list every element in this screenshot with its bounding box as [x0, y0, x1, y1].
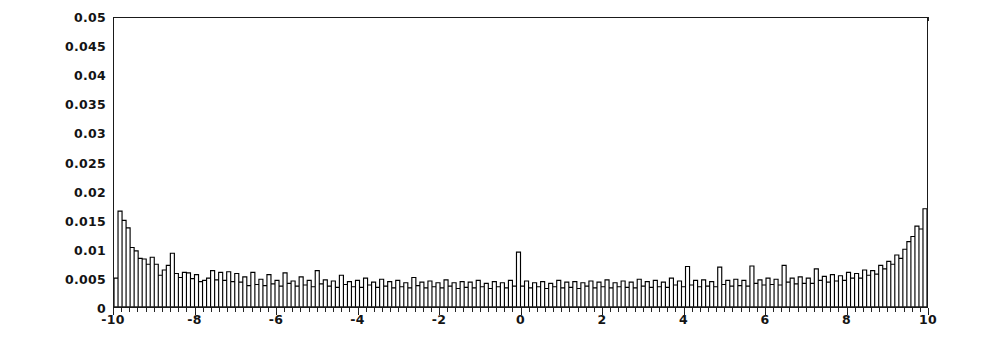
x-minor-tick: [398, 308, 399, 312]
x-minor-tick: [626, 308, 627, 312]
x-minor-tick: [219, 308, 220, 312]
x-minor-tick: [113, 308, 114, 312]
x-minor-tick: [195, 308, 196, 312]
x-minor-tick: [732, 308, 733, 312]
y-tick-label: 0.005: [65, 271, 106, 286]
x-minor-tick: [488, 308, 489, 312]
x-minor-tick: [529, 308, 530, 312]
x-minor-tick: [667, 308, 668, 312]
x-minor-tick: [871, 308, 872, 312]
x-minor-tick: [586, 308, 587, 312]
x-minor-tick: [162, 308, 163, 312]
x-minor-tick: [211, 308, 212, 312]
x-minor-tick: [349, 308, 350, 312]
x-minor-tick: [887, 308, 888, 312]
x-minor-tick: [129, 308, 130, 312]
x-minor-tick: [154, 308, 155, 312]
x-minor-tick: [317, 308, 318, 312]
x-minor-tick: [692, 308, 693, 312]
x-minor-tick: [708, 308, 709, 312]
x-minor-tick: [863, 308, 864, 312]
x-minor-tick: [455, 308, 456, 312]
histogram-bar-outline: [114, 209, 927, 307]
x-minor-tick: [700, 308, 701, 312]
x-minor-tick: [920, 308, 921, 312]
x-minor-tick: [146, 308, 147, 312]
x-minor-tick: [170, 308, 171, 312]
x-minor-tick: [374, 308, 375, 312]
x-minor-tick: [276, 308, 277, 312]
y-tick-label: 0.05: [74, 10, 106, 25]
x-minor-tick: [406, 308, 407, 312]
x-minor-tick: [781, 308, 782, 312]
x-minor-tick: [512, 308, 513, 312]
y-axis-labels: 00.0050.010.0150.020.0250.030.0350.040.0…: [0, 0, 106, 346]
x-minor-tick: [480, 308, 481, 312]
histogram-figure: 00.0050.010.0150.020.0250.030.0350.040.0…: [0, 0, 981, 346]
x-minor-tick: [358, 308, 359, 312]
x-minor-tick: [895, 308, 896, 312]
y-tick-label: 0.035: [65, 97, 106, 112]
y-tick-label: 0.045: [65, 39, 106, 54]
x-minor-tick: [618, 308, 619, 312]
x-minor-tick: [741, 308, 742, 312]
x-minor-tick: [439, 308, 440, 312]
x-minor-tick: [333, 308, 334, 312]
x-minor-tick: [659, 308, 660, 312]
x-minor-tick: [186, 308, 187, 312]
x-minor-tick: [569, 308, 570, 312]
x-minor-tick: [137, 308, 138, 312]
x-minor-tick-top: [928, 17, 929, 21]
x-minor-tick: [822, 308, 823, 312]
x-minor-tick: [203, 308, 204, 312]
x-minor-tick: [325, 308, 326, 312]
x-minor-tick: [912, 308, 913, 312]
x-minor-tick: [635, 308, 636, 312]
x-minor-tick: [904, 308, 905, 312]
x-minor-tick: [643, 308, 644, 312]
y-tick-label: 0.02: [74, 184, 106, 199]
y-tick-label: 0.03: [74, 126, 106, 141]
x-minor-tick: [178, 308, 179, 312]
x-minor-tick: [243, 308, 244, 312]
x-minor-tick: [292, 308, 293, 312]
x-minor-tick: [724, 308, 725, 312]
plot-area: [113, 17, 928, 308]
x-minor-tick: [765, 308, 766, 312]
histogram-bars-svg: [114, 18, 927, 307]
x-minor-tick: [423, 308, 424, 312]
y-tick-label: 0.015: [65, 213, 106, 228]
x-minor-tick: [757, 308, 758, 312]
x-minor-tick: [496, 308, 497, 312]
x-minor-tick: [472, 308, 473, 312]
x-minor-tick: [602, 308, 603, 312]
x-minor-tick: [610, 308, 611, 312]
x-minor-tick: [252, 308, 253, 312]
x-minor-tick: [537, 308, 538, 312]
x-minor-tick: [366, 308, 367, 312]
x-minor-tick: [651, 308, 652, 312]
x-minor-tick: [716, 308, 717, 312]
x-minor-tick: [773, 308, 774, 312]
x-minor-tick: [284, 308, 285, 312]
y-tick-label: 0.04: [74, 68, 106, 83]
histogram-bars: [114, 18, 927, 307]
x-minor-tick: [675, 308, 676, 312]
x-minor-tick: [341, 308, 342, 312]
x-minor-tick: [594, 308, 595, 312]
x-minor-tick: [847, 308, 848, 312]
x-minor-tick: [789, 308, 790, 312]
x-minor-tick: [928, 308, 929, 312]
x-minor-tick: [684, 308, 685, 312]
x-minor-tick: [415, 308, 416, 312]
x-minor-tick: [578, 308, 579, 312]
x-minor-tick: [798, 308, 799, 312]
x-minor-tick: [235, 308, 236, 312]
x-minor-tick: [806, 308, 807, 312]
x-minor-tick: [830, 308, 831, 312]
x-minor-tick: [382, 308, 383, 312]
x-minor-tick: [309, 308, 310, 312]
x-minor-tick: [121, 308, 122, 312]
x-minor-tick: [521, 308, 522, 312]
x-minor-tick: [814, 308, 815, 312]
